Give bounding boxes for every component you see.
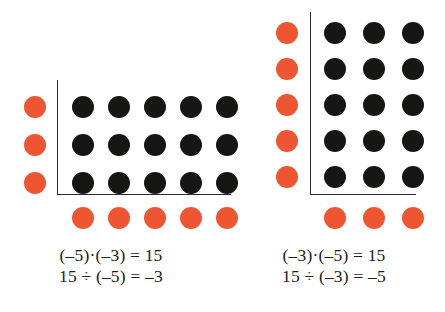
factor-dot-vertical bbox=[24, 172, 46, 194]
product-dot bbox=[324, 166, 346, 188]
factor-dot-horizontal bbox=[402, 207, 424, 229]
product-dot bbox=[363, 58, 385, 80]
equation-line-1: (–5)·(–3) = 15 bbox=[0, 245, 222, 266]
product-dot bbox=[72, 134, 94, 156]
equation-line-2: 15 ÷ (–3) = –5 bbox=[223, 266, 445, 287]
product-dot bbox=[72, 96, 94, 118]
factor-dot-horizontal bbox=[108, 207, 130, 229]
factor-dot-vertical bbox=[24, 134, 46, 156]
vertical-axis-right bbox=[310, 12, 311, 195]
product-dot bbox=[363, 130, 385, 152]
factor-dot-horizontal bbox=[363, 207, 385, 229]
product-dot bbox=[402, 130, 424, 152]
factor-dot-horizontal bbox=[180, 207, 202, 229]
product-dot bbox=[72, 172, 94, 194]
factor-dot-vertical bbox=[24, 96, 46, 118]
product-dot bbox=[180, 96, 202, 118]
product-dot bbox=[363, 166, 385, 188]
factor-dot-horizontal bbox=[72, 207, 94, 229]
product-dot bbox=[402, 22, 424, 44]
horizontal-axis-left bbox=[57, 194, 231, 195]
equation-line-1: (–3)·(–5) = 15 bbox=[223, 245, 445, 266]
product-dot bbox=[402, 166, 424, 188]
product-dot bbox=[180, 134, 202, 156]
product-dot bbox=[144, 134, 166, 156]
factor-dot-vertical bbox=[276, 58, 298, 80]
product-dot bbox=[144, 172, 166, 194]
product-dot bbox=[402, 58, 424, 80]
product-dot bbox=[324, 22, 346, 44]
equations-left: (–5)·(–3) = 15 15 ÷ (–5) = –3 bbox=[0, 245, 222, 286]
product-dot bbox=[108, 96, 130, 118]
product-dot bbox=[144, 96, 166, 118]
factor-dot-vertical bbox=[276, 166, 298, 188]
product-dot bbox=[324, 94, 346, 116]
product-dot bbox=[402, 94, 424, 116]
horizontal-axis-right bbox=[310, 194, 416, 195]
factor-dot-horizontal bbox=[144, 207, 166, 229]
factor-dot-vertical bbox=[276, 22, 298, 44]
product-dot bbox=[324, 58, 346, 80]
product-dot bbox=[108, 172, 130, 194]
equations-right: (–3)·(–5) = 15 15 ÷ (–3) = –5 bbox=[223, 245, 445, 286]
array-panel-left: (–5)·(–3) = 15 15 ÷ (–5) = –3 bbox=[0, 0, 222, 312]
product-dot bbox=[324, 130, 346, 152]
figure-canvas: (–5)·(–3) = 15 15 ÷ (–5) = –3 (–3)·(–5) … bbox=[0, 0, 445, 312]
factor-dot-horizontal bbox=[324, 207, 346, 229]
vertical-axis-left bbox=[57, 80, 58, 195]
product-dot bbox=[180, 172, 202, 194]
equation-line-2: 15 ÷ (–5) = –3 bbox=[0, 266, 222, 287]
product-dot bbox=[108, 134, 130, 156]
product-dot bbox=[363, 22, 385, 44]
factor-dot-vertical bbox=[276, 130, 298, 152]
product-dot bbox=[363, 94, 385, 116]
array-panel-right: (–3)·(–5) = 15 15 ÷ (–3) = –5 bbox=[223, 0, 445, 312]
factor-dot-vertical bbox=[276, 94, 298, 116]
